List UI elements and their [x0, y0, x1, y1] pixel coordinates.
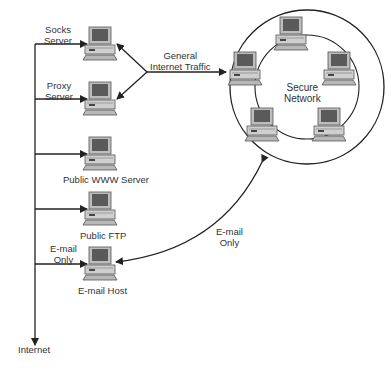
email-only-right-label: E-mailOnly — [216, 226, 243, 248]
internet-label: Internet — [18, 344, 50, 355]
service-computers — [83, 27, 117, 280]
proxy-server-label: ProxyServer — [45, 80, 73, 102]
ftp-label: Public FTP — [80, 230, 126, 241]
email-only-left-label: E-mailOnly — [50, 243, 77, 265]
secure-network-label: SecureNetwork — [284, 82, 321, 104]
email-host-label: E-mail Host — [78, 285, 127, 296]
general-traffic-label: GeneralInternet Traffic — [150, 50, 211, 72]
www-server-label: Public WWW Server — [63, 174, 149, 185]
socks-server-label: SocksServer — [44, 24, 72, 46]
secure-computers — [228, 17, 356, 141]
